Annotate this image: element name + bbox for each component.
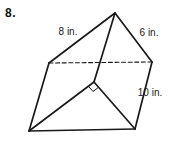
right-angle-marker: [88, 86, 98, 91]
base-left-leg: [29, 82, 94, 131]
label-10-in: 10 in.: [138, 87, 162, 98]
prism-figure: 8 in.6 in.10 in.: [0, 0, 182, 143]
base-bottom-edge: [29, 129, 135, 131]
worksheet-page: 8. 8 in.6 in.10 in.: [0, 0, 182, 143]
label-8-in: 8 in.: [59, 26, 78, 37]
top-left-edge-8in: [49, 13, 115, 63]
left-lateral-edge: [29, 63, 49, 131]
front-lateral-edge: [94, 13, 115, 82]
label-6-in: 6 in.: [140, 27, 159, 38]
base-right-leg: [94, 82, 135, 129]
